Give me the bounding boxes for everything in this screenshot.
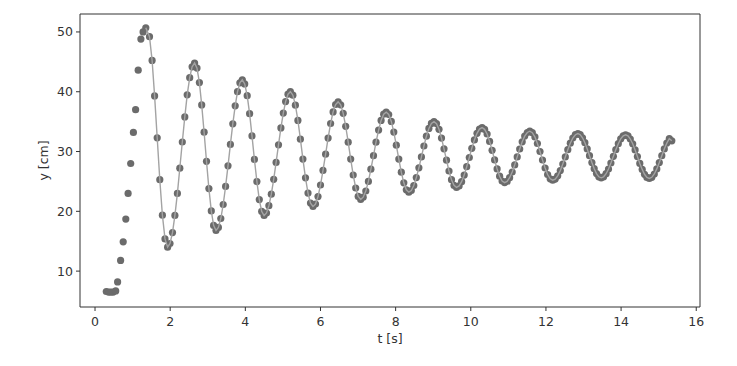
x-tick-label: 2 <box>166 314 174 329</box>
y-tick-label: 30 <box>57 144 73 159</box>
plot-area <box>103 24 676 296</box>
x-tick-label: 6 <box>317 314 325 329</box>
y-tick-label: 20 <box>57 204 73 219</box>
data-point <box>137 36 144 43</box>
x-tick-label: 12 <box>538 314 554 329</box>
x-axis-label: t [s] <box>377 331 402 346</box>
x-tick-label: 14 <box>613 314 629 329</box>
x-tick-label: 8 <box>392 314 400 329</box>
x-tick-label: 4 <box>241 314 249 329</box>
x-tick-label: 10 <box>463 314 479 329</box>
data-point <box>130 129 137 136</box>
data-point <box>112 287 119 294</box>
data-point <box>127 160 134 167</box>
data-point <box>125 190 132 197</box>
y-tick-label: 40 <box>57 84 73 99</box>
data-point <box>117 257 124 264</box>
x-tick-label: 0 <box>91 314 99 329</box>
data-point <box>120 238 127 245</box>
data-point <box>114 278 121 285</box>
y-ticks: 1020304050 <box>57 24 80 278</box>
y-axis-label: y [cm] <box>36 140 51 180</box>
data-point <box>142 24 149 31</box>
data-point <box>132 106 139 113</box>
y-tick-label: 50 <box>57 24 73 39</box>
x-ticks: 0246810121416 <box>91 307 704 329</box>
data-point <box>135 67 142 74</box>
fit-line <box>146 28 672 247</box>
x-tick-label: 16 <box>688 314 704 329</box>
chart: 0246810121416 1020304050 t [s] y [cm] <box>0 0 737 366</box>
data-point <box>122 216 129 223</box>
y-tick-label: 10 <box>57 264 73 279</box>
